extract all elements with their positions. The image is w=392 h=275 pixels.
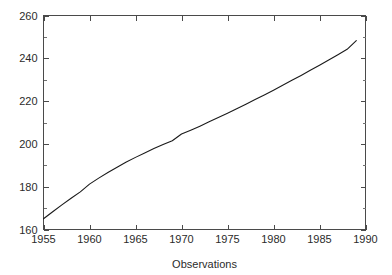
x-tick-label: 1985	[307, 233, 331, 245]
x-tick-label: 1965	[123, 233, 147, 245]
y-tick-labels: 160180200220240260	[19, 10, 37, 236]
x-tick-label: 1960	[77, 233, 101, 245]
y-tick-label: 180	[19, 181, 37, 193]
y-tick-label: 200	[19, 138, 37, 150]
figure-canvas: 19551960196519701975198019851990 1601802…	[0, 0, 392, 275]
y-tick-label: 160	[19, 224, 37, 236]
x-tick-labels: 19551960196519701975198019851990	[31, 233, 377, 245]
x-tick-label: 1980	[261, 233, 285, 245]
y-tick-label: 220	[19, 95, 37, 107]
x-axis-title: Observations	[172, 258, 237, 270]
x-tick-label: 1975	[215, 233, 239, 245]
line-chart: 19551960196519701975198019851990 1601802…	[0, 0, 392, 275]
x-tick-label: 1990	[353, 233, 377, 245]
y-tick-label: 260	[19, 10, 37, 22]
x-tick-label: 1970	[169, 233, 193, 245]
plot-background	[44, 16, 366, 230]
y-tick-label: 240	[19, 52, 37, 64]
